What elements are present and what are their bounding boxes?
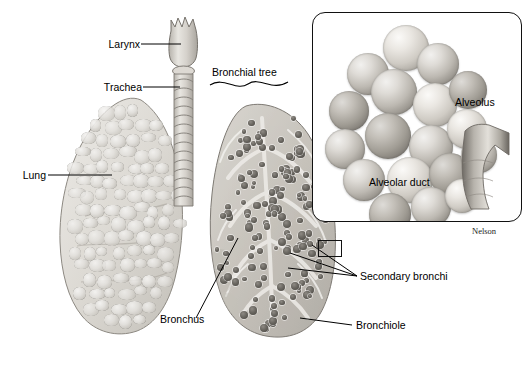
credit-text: Nelson	[472, 226, 496, 236]
alveoli-detail-inset: Alveolus Alveolar duct	[312, 12, 522, 222]
lung-label: Lung	[0, 170, 46, 181]
bronchial-tree-label: Bronchial tree	[212, 67, 277, 78]
figure-canvas: Alveolus Alveolar duct Larynx Trachea Lu…	[0, 0, 532, 367]
bronchiole-label: Bronchiole	[356, 320, 406, 331]
alveolus-label: Alveolus	[455, 97, 495, 108]
trachea-label: Trachea	[48, 82, 142, 93]
bronchus-label: Bronchus	[160, 314, 204, 325]
secondary-bronchi-label: Secondary bronchi	[360, 271, 448, 282]
larynx-label: Larynx	[48, 39, 140, 50]
alveolar-duct-label: Alveolar duct	[369, 177, 430, 188]
alveolar-duct	[313, 13, 521, 221]
